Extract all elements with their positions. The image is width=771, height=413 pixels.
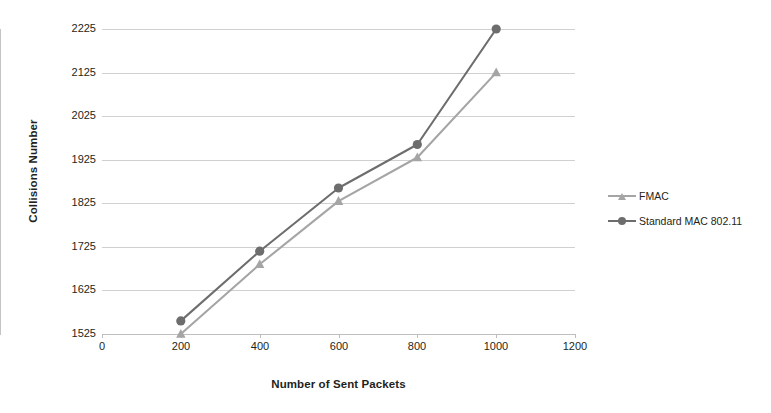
legend-triangle-marker-icon [608, 190, 636, 202]
legend-marker [618, 193, 626, 200]
data-point-marker [176, 316, 185, 325]
x-axis-title: Number of Sent Packets [102, 378, 575, 390]
data-point-marker [255, 247, 264, 256]
series-line [181, 29, 496, 321]
legend-circle-marker-icon [608, 215, 636, 227]
collisions-number-line-chart: Collisions Number 1525162517251825192520… [0, 0, 771, 413]
data-point-marker [334, 183, 343, 192]
series-1 [176, 68, 501, 338]
legend-label: FMAC [639, 190, 669, 202]
data-point-marker [492, 24, 501, 33]
chart-legend: FMACStandard MAC 802.11 [608, 183, 768, 233]
data-point-marker [334, 196, 344, 205]
legend-item-2[interactable]: Standard MAC 802.11 [608, 208, 768, 233]
legend-label: Standard MAC 802.11 [639, 215, 742, 227]
series-2 [176, 24, 501, 325]
legend-item-1[interactable]: FMAC [608, 183, 768, 208]
data-point-marker [491, 68, 501, 77]
data-point-marker [413, 140, 422, 149]
legend-marker [618, 217, 626, 225]
